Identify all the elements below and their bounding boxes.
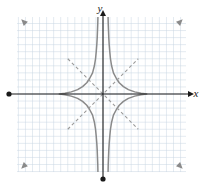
graph-figure: y x xyxy=(0,0,202,186)
y-axis-label: y xyxy=(97,2,103,14)
y-axis-bottom-endpoint-dot xyxy=(100,176,105,181)
coordinate-plane: y x xyxy=(0,0,202,186)
x-axis-left-endpoint-dot xyxy=(6,91,11,96)
x-axis-label: x xyxy=(193,87,199,99)
